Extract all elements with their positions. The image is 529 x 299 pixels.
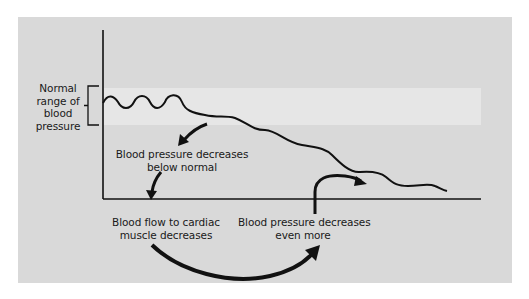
normal-range-line-4: pressure (22, 120, 94, 133)
decrease-even-more-label: Blood pressure decreases even more (238, 216, 368, 242)
decrease-more-line-1: Blood pressure decreases (238, 216, 368, 229)
decrease-more-line-2: even more (238, 229, 368, 242)
blood-flow-decreases-label: Blood flow to cardiac muscle decreases (108, 216, 224, 242)
arrow-back-to-curve (315, 176, 361, 214)
blood-flow-line-2: muscle decreases (108, 229, 224, 242)
arrow-to-below-normal (184, 124, 207, 140)
arrow-to-blood-flow (152, 172, 161, 192)
blood-pressure-diagram (0, 0, 529, 299)
arrow-to-decrease-more (152, 245, 313, 279)
normal-range-line-1: Normal (22, 82, 94, 95)
normal-range-line-2: range of (22, 95, 94, 108)
arrow-head-icon (354, 176, 367, 186)
decrease-below-line-2: below normal (112, 161, 252, 174)
normal-range-line-3: blood (22, 107, 94, 120)
decrease-below-normal-label: Blood pressure decreases below normal (112, 148, 252, 174)
normal-range-label: Normal range of blood pressure (22, 82, 94, 132)
blood-flow-line-1: Blood flow to cardiac (108, 216, 224, 229)
decrease-below-line-1: Blood pressure decreases (112, 148, 252, 161)
